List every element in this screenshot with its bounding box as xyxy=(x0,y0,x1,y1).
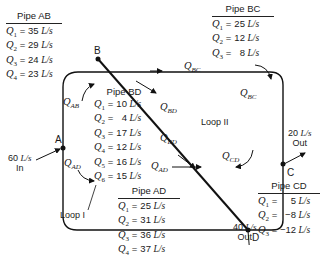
table-row: Q3 = 36 L/s xyxy=(118,230,180,245)
q-bd-lower-label: QBD xyxy=(160,132,177,146)
outflow-c-unit: L/s xyxy=(301,128,312,138)
table-row: Q1 = 25 L/s xyxy=(212,19,274,34)
node-c-label: C xyxy=(287,167,294,178)
table-row: Q1 = 10 L/s xyxy=(94,99,154,114)
loop-i-leader xyxy=(88,185,96,210)
outflow-d-label: 40 L/s Out xyxy=(233,222,257,242)
table-pipe-bd-title: Pipe BD xyxy=(94,87,154,99)
table-pipe-cd-title: Pipe CD xyxy=(258,181,320,194)
table-row: Q2 = 4 L/s xyxy=(94,113,154,128)
node-b-dot xyxy=(96,57,101,62)
table-row: Q3 = −12 L/s xyxy=(258,225,320,240)
q-cd-label: QCD xyxy=(222,150,239,164)
table-row: Q4 = 23 L/s xyxy=(6,69,62,84)
table-pipe-ab-title: Pipe AB xyxy=(6,11,62,24)
table-row: Q2 = 31 L/s xyxy=(118,215,180,230)
table-pipe-bc: Pipe BC Q1 = 25 L/s Q2 = 12 L/s Q3 = 8 L… xyxy=(212,4,274,62)
outflow-d-unit: L/s xyxy=(246,222,257,232)
table-row: Q1 = 5 L/s xyxy=(258,196,320,211)
table-row: Q5 = 16 L/s xyxy=(94,157,154,172)
table-row: Q4 = 37 L/s xyxy=(118,244,180,259)
loop-i-label: Loop I xyxy=(60,210,85,220)
table-pipe-ab: Pipe AB Q1 = 35 L/s Q2 = 29 L/s Q3 = 24 … xyxy=(6,11,62,84)
inflow-a-unit: L/s xyxy=(21,153,32,163)
table-row: Q6 = 15 L/s xyxy=(94,171,154,186)
node-a-dot xyxy=(61,146,66,151)
table-row: Q2 = 29 L/s xyxy=(6,40,62,55)
table-row: Q1 = 25 L/s xyxy=(118,201,180,216)
table-pipe-bd: Pipe BD Q1 = 10 L/s Q2 = 4 L/s Q3 = 17 L… xyxy=(94,87,154,186)
table-row: Q4 = 12 L/s xyxy=(94,142,154,157)
q-bc-top-label: QBC xyxy=(184,60,201,74)
outflow-d-value: 40 xyxy=(233,222,243,232)
outflow-c-dir: Out xyxy=(288,138,312,148)
q-bc-right-label: QBC xyxy=(240,87,257,101)
node-b-label: B xyxy=(94,45,101,56)
inflow-a-value: 60 xyxy=(8,153,18,163)
loop-ii-label: Loop II xyxy=(201,117,229,127)
outflow-c-label: 20 L/s Out xyxy=(288,128,312,148)
arrow-q-ad-left xyxy=(78,170,94,181)
outflow-arrow-c xyxy=(284,153,305,164)
arrow-q-ab xyxy=(82,84,94,101)
table-row: Q3 = 24 L/s xyxy=(6,55,62,70)
table-row: Q2 = 12 L/s xyxy=(212,33,274,48)
table-pipe-cd: Pipe CD Q1 = 5 L/s Q2 = −8 L/s Q3 = −12 … xyxy=(258,181,320,239)
table-row: Q3 = 17 L/s xyxy=(94,128,154,143)
inflow-a-label: 60 L/s In xyxy=(8,153,32,173)
q-ad-left-label: QAD xyxy=(64,157,81,171)
table-pipe-ad: Pipe AD Q1 = 25 L/s Q2 = 31 L/s Q3 = 36 … xyxy=(118,186,180,259)
table-row: Q1 = 35 L/s xyxy=(6,26,62,41)
inflow-arrow-a xyxy=(36,149,60,160)
arrow-q-bd-lower xyxy=(178,155,195,168)
outflow-d-dir: Out xyxy=(233,232,257,242)
inflow-a-dir: In xyxy=(8,163,32,173)
outflow-c-value: 20 xyxy=(288,128,298,138)
table-pipe-ad-title: Pipe AD xyxy=(118,186,180,199)
table-row: Q2 = −8 L/s xyxy=(258,210,320,225)
table-row: Q3 = 8 L/s xyxy=(212,48,274,63)
table-pipe-bc-title: Pipe BC xyxy=(212,4,274,17)
q-bd-upper-label: QBD xyxy=(160,101,177,115)
q-ab-label: QAB xyxy=(63,96,79,110)
node-a-label: A xyxy=(55,134,62,145)
